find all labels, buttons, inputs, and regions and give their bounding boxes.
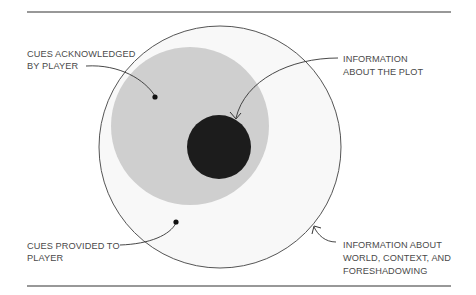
label-information-world: INFORMATION ABOUT WORLD, CONTEXT, AND FO…	[343, 240, 454, 276]
arrowhead-world	[312, 226, 321, 234]
plot-information-circle	[187, 115, 251, 179]
dot-cues-acknowledged	[152, 94, 157, 99]
nested-circles-diagram: CUES ACKNOWLEDGED BY PLAYER INFORMATION …	[0, 0, 476, 295]
leader-world-information	[314, 227, 336, 242]
label-cues-provided: CUES PROVIDED TO PLAYER	[27, 241, 122, 263]
dot-cues-provided	[173, 219, 178, 224]
cues-acknowledged-circle	[111, 47, 269, 205]
label-information-plot: INFORMATION ABOUT THE PLOT	[343, 54, 423, 77]
label-cues-acknowledged: CUES ACKNOWLEDGED BY PLAYER	[27, 49, 138, 71]
